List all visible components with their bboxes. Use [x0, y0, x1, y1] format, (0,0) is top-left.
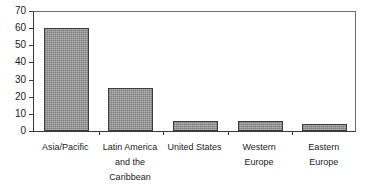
y-axis-tick-label: 20: [15, 91, 26, 102]
bar-chart: 010203040506070 Asia/PacificLatin Americ…: [0, 0, 368, 194]
x-axis-category-label: Asia/Pacific: [33, 140, 98, 155]
y-axis-tick-label: 0: [20, 125, 26, 136]
y-axis-tick-label: 10: [15, 108, 26, 119]
x-axis-category-label: Latin America and the Caribbean: [98, 140, 163, 185]
y-axis-tick-label: 40: [15, 56, 26, 67]
plot-area: [33, 11, 356, 132]
bar: [108, 88, 153, 131]
y-axis-tick-label: 50: [15, 39, 26, 50]
bar: [173, 121, 218, 131]
x-axis-tick-mark: [292, 131, 293, 135]
y-axis-tick-label: 30: [15, 74, 26, 85]
x-axis-category-label: United States: [162, 140, 227, 155]
x-axis-tick-mark: [228, 131, 229, 135]
x-axis-category-label: Eastern Europe: [291, 140, 356, 170]
y-axis-tick-label: 70: [15, 5, 26, 16]
bar: [302, 124, 347, 131]
x-axis-labels: Asia/PacificLatin America and the Caribb…: [33, 140, 356, 194]
x-axis-category-label: Western Europe: [227, 140, 292, 170]
bar: [238, 121, 283, 131]
y-axis-tick-label: 60: [15, 22, 26, 33]
bar: [44, 28, 89, 131]
x-axis-tick-mark: [99, 131, 100, 135]
x-axis-tick-mark: [163, 131, 164, 135]
